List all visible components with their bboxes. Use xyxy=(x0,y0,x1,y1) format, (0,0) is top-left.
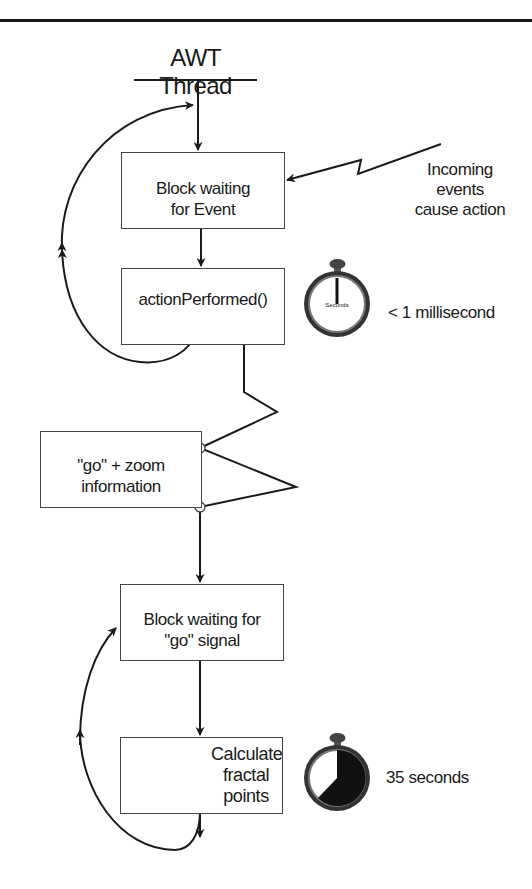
stopwatch-slow-icon xyxy=(304,733,370,811)
slow-time-label: 35 seconds xyxy=(386,768,469,788)
incoming-line-3: cause action xyxy=(400,200,520,220)
incoming-events-label: Incoming events cause action xyxy=(400,160,520,220)
incoming-line-2: events xyxy=(400,180,520,200)
diagram-title: AWT Thread xyxy=(134,44,257,101)
action-performed-box: actionPerformed() xyxy=(121,268,285,345)
fast-time-label: < 1 millisecond xyxy=(388,303,495,323)
box-label: Block waiting for Event xyxy=(148,178,258,220)
box-label: "go" + zoom information xyxy=(71,455,171,497)
box-label: Block waiting for "go" signal xyxy=(142,609,262,651)
box-label: actionPerformed() xyxy=(138,289,267,310)
block-waiting-event-box: Block waiting for Event xyxy=(121,152,285,229)
calculate-fractal-box: Calculate fractal points xyxy=(120,737,283,814)
svg-text:Seconds: Seconds xyxy=(325,302,348,308)
box-label: Calculate fractal points xyxy=(211,744,281,807)
go-zoom-info-box: "go" + zoom information xyxy=(40,431,202,508)
block-waiting-go-box: Block waiting for "go" signal xyxy=(120,584,284,661)
incoming-line-1: Incoming xyxy=(400,160,520,180)
stopwatch-fast-icon: Seconds xyxy=(304,259,370,337)
